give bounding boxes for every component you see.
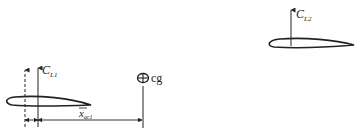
cg-label: cg xyxy=(151,71,162,85)
lift-2-label: CL2 xyxy=(296,7,312,23)
distance-label: xac1 xyxy=(78,107,93,120)
lift-1-label: CL1 xyxy=(42,63,57,79)
airfoil-2 xyxy=(269,38,354,47)
airfoil-1 xyxy=(7,96,91,106)
cg-symbol-icon xyxy=(138,74,149,83)
diagram-canvas: CL1 xac1 cg CL2 xyxy=(0,0,362,140)
